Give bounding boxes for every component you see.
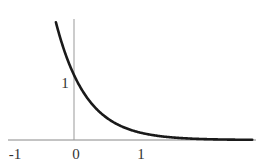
x-tick-label-0: 0 (72, 146, 80, 162)
y-tick-label-1: 1 (61, 75, 69, 91)
exponential-decay-chart: -1 0 1 1 (0, 0, 263, 167)
decay-curve (56, 22, 252, 140)
x-tick-label-neg1: -1 (9, 146, 22, 162)
x-tick-label-1: 1 (137, 146, 145, 162)
